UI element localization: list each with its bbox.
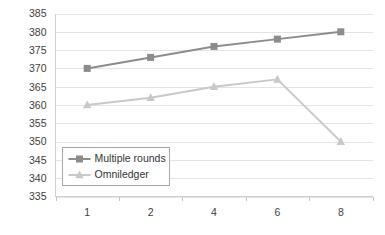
y-axis-tick-label: 350 [29,135,47,147]
data-series-group [83,28,345,145]
data-point-marker [211,43,218,50]
legend-key-marker [76,156,83,163]
y-axis-tick-label: 340 [29,172,47,184]
data-point-marker [274,36,281,43]
y-axis-tick-label: 360 [29,99,47,111]
x-axis-tick-label: 2 [148,206,154,218]
data-point-marker [147,54,154,61]
line-chart: 335340345350355360365370375380385 12468 … [0,0,385,235]
y-axis-tick-label: 370 [29,62,47,74]
y-axis-tick-label: 380 [29,26,47,38]
x-axis-tick-label: 8 [338,206,344,218]
y-axis-tick-label: 365 [29,81,47,93]
chart-legend: Multiple roundsOmniledger [63,148,170,186]
y-axis-tick-labels: 335340345350355360365370375380385 [29,7,47,202]
chart-container: 335340345350355360365370375380385 12468 … [0,0,385,235]
y-axis-tick-label: 375 [29,44,47,56]
x-axis-tick-labels: 12468 [84,206,344,218]
x-axis-tick-label: 4 [211,206,217,218]
data-point-marker [84,65,91,72]
y-axis-tick-label: 385 [29,7,47,19]
x-axis-tick-label: 6 [274,206,280,218]
y-axis-tick-label: 335 [29,190,47,202]
x-axis-tick-label: 1 [84,206,90,218]
y-axis-tick-label: 355 [29,117,47,129]
series-omniledger [83,75,345,145]
y-axis-tick-label: 345 [29,154,47,166]
data-point-marker [337,28,344,35]
legend-item-label: Omniledger [95,168,150,180]
legend-item-label: Multiple rounds [95,152,166,164]
